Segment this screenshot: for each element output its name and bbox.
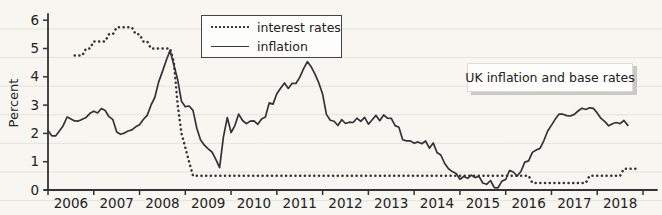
y-axis-title: Percent	[6, 63, 22, 143]
x-year-label: 2013	[374, 195, 408, 211]
x-year-label: 2018	[603, 195, 637, 211]
y-tick-label: 4	[30, 68, 39, 84]
y-tick-label: 2	[30, 125, 39, 141]
y-tick-label: 6	[30, 12, 39, 28]
x-year-label: 2014	[420, 195, 454, 211]
x-year-label: 2007	[99, 195, 133, 211]
chart-figure: 0123456200620072008200920102011201220132…	[0, 0, 662, 215]
x-year-label: 2012	[328, 195, 362, 211]
dotted-line-swatch	[211, 26, 249, 28]
x-year-label: 2008	[145, 195, 179, 211]
x-year-label: 2017	[557, 195, 591, 211]
legend-label-inflation: inflation	[257, 39, 308, 54]
y-tick-label: 5	[30, 40, 39, 56]
annotation-box: UK inflation and base rates	[467, 63, 633, 92]
x-year-label: 2006	[54, 195, 88, 211]
x-year-label: 2015	[466, 195, 500, 211]
legend-item-interest-rates: interest rates	[211, 20, 341, 35]
x-year-label: 2016	[511, 195, 545, 211]
x-year-label: 2009	[191, 195, 225, 211]
solid-line-swatch	[211, 46, 249, 47]
legend-item-inflation: inflation	[211, 39, 341, 54]
interest-rates-line	[75, 27, 640, 183]
y-tick-label: 1	[30, 153, 39, 169]
legend-label-interest-rates: interest rates	[257, 20, 341, 35]
legend: interest rates inflation	[201, 15, 342, 58]
y-tick-label: 3	[30, 97, 39, 113]
x-year-label: 2010	[237, 195, 271, 211]
x-year-label: 2011	[283, 195, 317, 211]
y-tick-label: 0	[30, 182, 39, 198]
